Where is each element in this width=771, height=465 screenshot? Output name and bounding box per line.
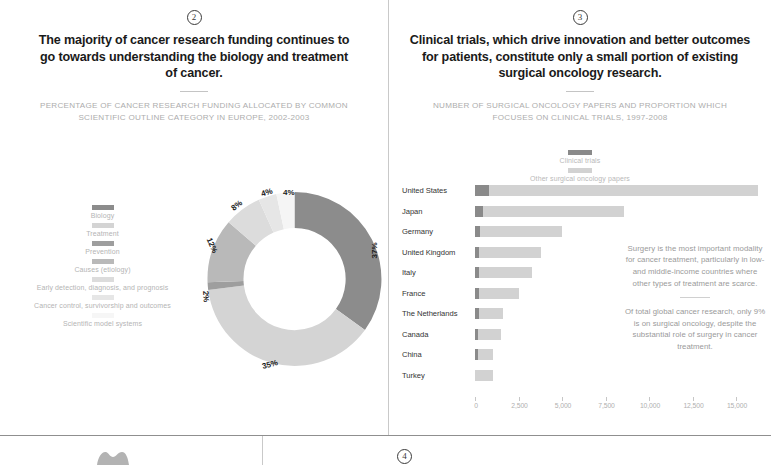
- bar-row-label: Germany: [402, 227, 473, 237]
- legend-label: Treatment: [0, 229, 205, 238]
- bar-track: [475, 185, 759, 196]
- bar-segment-clinical-trials: [475, 206, 483, 217]
- partial-graphic-icon: [95, 448, 131, 465]
- axis-tick-label: 12,500: [683, 402, 703, 409]
- axis-tick: [562, 397, 563, 401]
- axis-tick-label: 2,500: [511, 402, 528, 409]
- legend-swatch: [92, 205, 114, 210]
- legend-label: Clinical trials: [389, 156, 771, 165]
- bar-segment-other: [479, 247, 541, 258]
- donut-slice-biology: [295, 192, 382, 330]
- bar-row-label: United Kingdom: [402, 248, 473, 258]
- panel-left-header: 2 The majority of cancer research fundin…: [0, 0, 388, 124]
- legend-item-other-papers[interactable]: Other surgical oncology papers: [389, 168, 771, 183]
- donut-legend: Biology Treatment Prevention Causes (eti…: [0, 205, 205, 331]
- legend-swatch: [568, 168, 592, 173]
- bar-segment-other: [478, 349, 494, 360]
- bar-row-label: Turkey: [402, 371, 473, 381]
- bar-row-label: United States: [402, 186, 473, 196]
- panel-funding-allocation: 2 The majority of cancer research fundin…: [0, 0, 388, 435]
- axis-tick-label: 5,000: [555, 402, 572, 409]
- legend-swatch: [568, 150, 592, 155]
- side-notes: Surgery is the most important modality f…: [623, 235, 767, 360]
- axis-tick: [649, 397, 650, 401]
- bar-track: [475, 206, 624, 217]
- note-global-research-share: Of total global cancer research, only 9%…: [623, 306, 767, 352]
- donut-label-2: 2%: [201, 290, 211, 302]
- donut-slice-treatment: [208, 285, 365, 365]
- bar-track: [475, 308, 503, 319]
- axis-tick: [475, 397, 476, 401]
- bar-track: [475, 288, 519, 299]
- section-number-3: 3: [573, 10, 588, 25]
- donut-label-37: 37%: [370, 242, 379, 258]
- legend-item-treatment[interactable]: Treatment: [0, 223, 205, 238]
- table-row[interactable]: Japan: [402, 205, 771, 226]
- bar-segment-other: [479, 288, 519, 299]
- legend-label: Scientific model systems: [0, 319, 205, 328]
- bar-row-label: Japan: [402, 207, 473, 217]
- axis-tick: [519, 397, 520, 401]
- bar-track: [475, 329, 501, 340]
- donut-chart[interactable]: 37% 35% 2% 12% 8% 4% 4%: [207, 184, 382, 374]
- axis-tick-label: 7,500: [598, 402, 615, 409]
- legend-label: Cancer control, survivorship and outcome…: [0, 301, 205, 310]
- legend-label: Causes (etiology): [0, 265, 205, 274]
- axis-tick: [693, 397, 694, 401]
- bar-track: [475, 370, 493, 381]
- bar-segment-clinical-trials: [475, 185, 489, 196]
- bar-chart-x-axis: 0 2,500 5,000 7,500 10,000 12,500 15,000: [475, 397, 765, 419]
- legend-item-causes[interactable]: Causes (etiology): [0, 259, 205, 274]
- table-row[interactable]: Turkey: [402, 369, 771, 390]
- legend-item-cancer-control[interactable]: Cancer control, survivorship and outcome…: [0, 295, 205, 310]
- panel-vertical-divider: [388, 0, 389, 435]
- legend-item-prevention[interactable]: Prevention: [0, 241, 205, 256]
- panel-left-headline: The majority of cancer research funding …: [34, 32, 354, 82]
- panel-left-subtitle: PERCENTAGE OF CANCER RESEARCH FUNDING AL…: [29, 100, 359, 124]
- bar-segment-other: [478, 329, 501, 340]
- bar-row-label: France: [402, 289, 473, 299]
- legend-item-biology[interactable]: Biology: [0, 205, 205, 220]
- bar-row-label: The Netherlands: [402, 309, 473, 319]
- panel-clinical-trials: 3 Clinical trials, which drive innovatio…: [389, 0, 771, 435]
- panel-right-headline: Clinical trials, which drive innovation …: [402, 32, 758, 82]
- bar-track: [475, 267, 532, 278]
- axis-tick: [736, 397, 737, 401]
- bar-segment-other: [480, 226, 563, 237]
- legend-label: Prevention: [0, 247, 205, 256]
- section-number-2: 2: [187, 10, 202, 25]
- legend-swatch: [92, 259, 114, 264]
- axis-tick-label: 10,000: [640, 402, 660, 409]
- table-row[interactable]: United States: [402, 184, 771, 205]
- legend-label: Other surgical oncology papers: [389, 174, 771, 183]
- section-number-4: 4: [397, 449, 412, 464]
- legend-item-scientific-models[interactable]: Scientific model systems: [0, 313, 205, 328]
- divider-rule: [680, 297, 710, 298]
- panel-right-header: 3 Clinical trials, which drive innovatio…: [389, 0, 771, 124]
- legend-item-clinical-trials[interactable]: Clinical trials: [389, 150, 771, 165]
- note-surgery-modality: Surgery is the most important modality f…: [623, 243, 767, 289]
- legend-label: Biology: [0, 211, 205, 220]
- bar-row-label: Italy: [402, 268, 473, 278]
- axis-tick: [606, 397, 607, 401]
- bar-segment-other: [479, 308, 503, 319]
- bar-row-label: China: [402, 350, 473, 360]
- axis-tick-label: 15,000: [727, 402, 747, 409]
- bar-row-label: Canada: [402, 330, 473, 340]
- bar-segment-other: [479, 267, 532, 278]
- bar-chart-legend: Clinical trials Other surgical oncology …: [389, 150, 771, 186]
- legend-swatch: [92, 241, 114, 246]
- donut-label-4b: 4%: [283, 188, 295, 197]
- legend-item-early-detection[interactable]: Early detection, diagnosis, and prognosi…: [0, 277, 205, 292]
- legend-swatch: [92, 277, 114, 282]
- bar-track: [475, 349, 493, 360]
- legend-swatch: [92, 295, 114, 300]
- bar-segment-other: [483, 206, 624, 217]
- bar-track: [475, 226, 563, 237]
- bar-segment-other: [489, 185, 758, 196]
- panel-right-subtitle: NUMBER OF SURGICAL ONCOLOGY PAPERS AND P…: [415, 100, 745, 124]
- legend-swatch: [92, 313, 114, 318]
- axis-tick-label: 0: [474, 402, 478, 409]
- divider-rule: [180, 91, 208, 92]
- divider-rule: [566, 91, 594, 92]
